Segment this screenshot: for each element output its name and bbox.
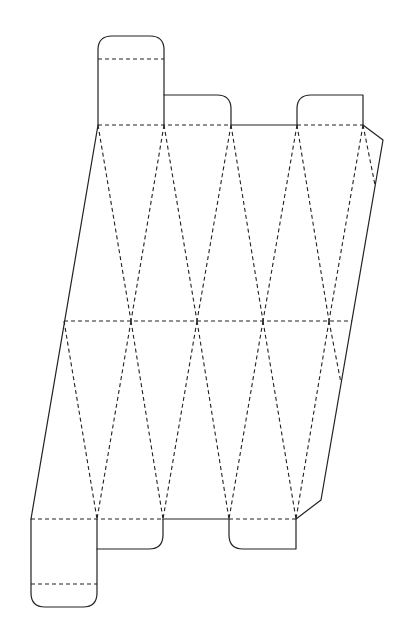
lower-diag-2	[97, 321, 131, 519]
lower-diag-8	[296, 321, 329, 519]
upper-diag-5	[231, 125, 263, 321]
bottom-left-tab	[31, 519, 97, 607]
top-left-tab	[98, 36, 164, 125]
lower-diag-3	[131, 321, 163, 519]
upper-diag-3	[164, 125, 197, 321]
lower-diag-5	[197, 321, 229, 519]
top-right-chamfer-and-right-edge	[296, 125, 383, 519]
lower-diag-1	[64, 321, 97, 519]
top-middle-flap	[164, 95, 231, 125]
fold-template-diagram	[0, 0, 407, 625]
bottom-middle-tab-2	[229, 519, 296, 549]
upper-diag-9	[363, 125, 375, 185]
bottom-middle-tab-1	[97, 519, 163, 549]
top-right-tab	[297, 95, 363, 125]
lower-diag-7	[263, 321, 296, 519]
lower-diag-6	[229, 321, 263, 519]
upper-diag-6	[263, 125, 297, 321]
upper-diag-1	[98, 125, 131, 321]
lower-diag-4	[163, 321, 197, 519]
fold-lines	[31, 59, 375, 584]
upper-diag-8	[329, 125, 363, 321]
upper-diag-7	[297, 125, 329, 321]
lower-diag-9	[329, 321, 341, 383]
upper-diag-2	[131, 125, 164, 321]
upper-diag-4	[197, 125, 231, 321]
